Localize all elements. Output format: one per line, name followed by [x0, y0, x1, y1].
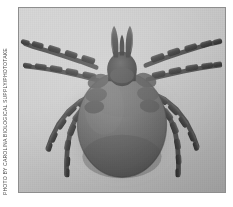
photo-credit-text: Photo by Carolina Biological Supply/Phot… — [2, 48, 7, 195]
tick-photograph — [19, 8, 225, 192]
idiosoma — [77, 72, 166, 178]
photo-credit: Photo by Carolina Biological Supply/Phot… — [0, 0, 15, 207]
photo-frame — [18, 7, 226, 193]
